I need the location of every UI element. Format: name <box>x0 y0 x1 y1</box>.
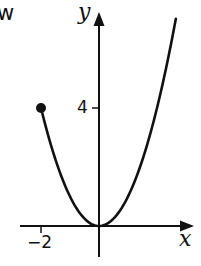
y-axis-arrow-icon <box>94 12 105 26</box>
y-axis-label: y <box>78 1 90 23</box>
closed-endpoint-dot <box>36 103 46 113</box>
parabola-plot <box>0 0 201 266</box>
x-axis-label: x <box>179 228 191 250</box>
parabola-curve <box>41 19 176 226</box>
cropped-text-fragment: w <box>0 3 14 24</box>
y-tick-label: 4 <box>77 99 88 116</box>
x-tick-label: −2 <box>27 234 52 251</box>
